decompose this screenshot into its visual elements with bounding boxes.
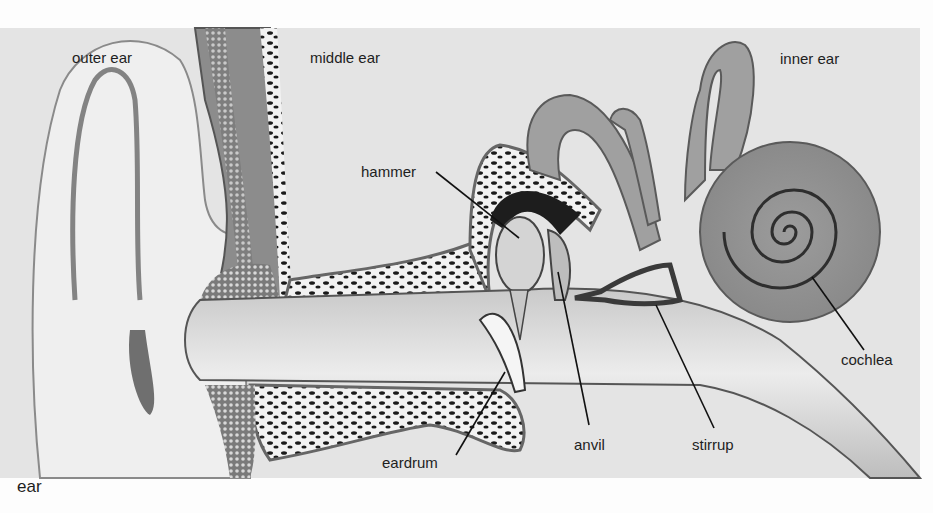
label-middle-ear: middle ear	[310, 50, 380, 65]
label-hammer: hammer	[361, 164, 416, 179]
cochlea-shape	[700, 142, 880, 322]
ear-illustration	[0, 0, 933, 513]
figure-caption: ear	[17, 478, 42, 495]
label-anvil: anvil	[574, 437, 605, 452]
label-inner-ear: inner ear	[780, 51, 839, 66]
label-cochlea: cochlea	[841, 352, 893, 367]
label-stirrup: stirrup	[692, 437, 734, 452]
label-eardrum: eardrum	[382, 455, 438, 470]
ear-diagram: outer ear middle ear inner ear hammer ea…	[0, 0, 933, 513]
label-outer-ear: outer ear	[72, 50, 132, 65]
hammer-shape	[496, 217, 544, 293]
